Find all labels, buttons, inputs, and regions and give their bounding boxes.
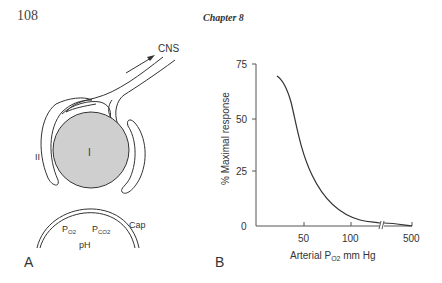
x-axis-label: Arterial PO2 mm Hg: [290, 250, 375, 262]
panel-a-label: A: [24, 254, 34, 270]
x-tick-500: 500: [403, 233, 420, 244]
y-axis-label: % Maximal response: [220, 92, 231, 185]
type-i-cell: [53, 112, 129, 188]
y-tick-0: 0: [241, 221, 247, 232]
capillary-label: Cap: [129, 220, 146, 230]
response-curve: [277, 76, 380, 223]
panel-b-label: B: [215, 254, 224, 270]
arrow-icon: [126, 58, 151, 73]
pco2-label: PCO2: [92, 224, 111, 235]
figure: CNS I II Cap PO2 PCO2 pH A 75 50 25 0 50…: [0, 0, 442, 283]
x-tick-50: 50: [298, 233, 310, 244]
type-i-label: I: [88, 147, 91, 158]
y-tick-75: 75: [236, 59, 248, 70]
nerve-fiber-outline-2: [109, 60, 175, 125]
cns-label: CNS: [158, 43, 179, 54]
y-tick-50: 50: [236, 114, 248, 125]
x-tick-100: 100: [342, 233, 359, 244]
panel-b-chart: [252, 64, 412, 229]
type-ii-label: II: [35, 152, 40, 162]
y-tick-25: 25: [236, 166, 248, 177]
ph-label: pH: [79, 240, 91, 250]
panel-a-diagram: [37, 55, 175, 248]
po2-label: PO2: [62, 224, 77, 235]
axis-break: [379, 221, 381, 229]
